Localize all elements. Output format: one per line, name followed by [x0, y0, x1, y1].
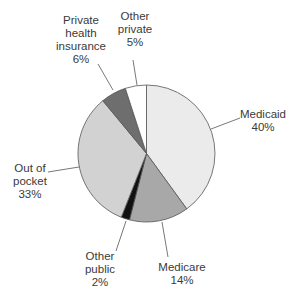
label-private-health-line3: insurance [56, 40, 106, 53]
label-out-of-pocket-line1: Out of [13, 162, 47, 175]
label-private-health-line1: Private [56, 14, 106, 27]
label-out-of-pocket-line2: pocket [13, 175, 47, 188]
label-private-health-line2: health [56, 27, 106, 40]
label-private-health-value: 6% [56, 53, 106, 66]
label-other-public-line2: public [85, 263, 115, 276]
label-medicare: Medicare 14% [158, 261, 205, 287]
label-other-private-line2: private [118, 23, 153, 36]
label-out-of-pocket: Out of pocket 33% [13, 162, 47, 201]
label-out-of-pocket-value: 33% [13, 188, 47, 201]
label-medicaid: Medicaid 40% [240, 108, 286, 134]
leader-line-other-private [133, 60, 137, 85]
leader-line-medicare [162, 222, 168, 257]
label-other-public-line1: Other [85, 250, 115, 263]
label-other-private-value: 5% [118, 36, 153, 49]
label-medicaid-value: 40% [240, 121, 286, 134]
leader-line-out-of-pocket [48, 167, 79, 172]
label-medicare-name: Medicare [158, 261, 205, 274]
label-other-private-line1: Other [118, 10, 153, 23]
pie-slices [78, 85, 215, 222]
label-medicaid-name: Medicaid [240, 108, 286, 121]
leader-line-medicaid [211, 118, 240, 129]
leader-line-other-public [116, 221, 126, 251]
label-medicare-value: 14% [158, 274, 205, 287]
label-private-health-insurance: Private health insurance 6% [56, 14, 106, 66]
label-other-public: Other public 2% [85, 250, 115, 289]
label-other-private: Other private 5% [118, 10, 153, 49]
leader-line-private-health [98, 64, 113, 90]
label-other-public-value: 2% [85, 276, 115, 289]
